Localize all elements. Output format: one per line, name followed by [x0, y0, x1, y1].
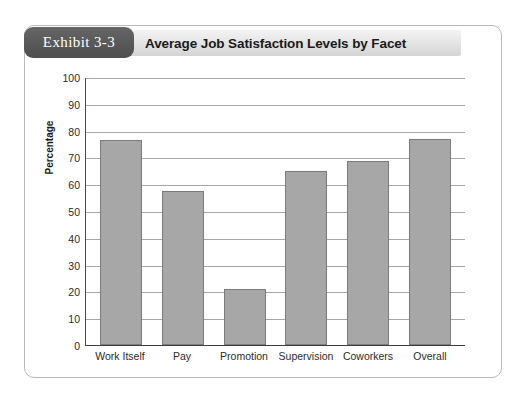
- bar-slot: [275, 78, 337, 345]
- bar-slot: [399, 78, 461, 345]
- bar-slot: [214, 78, 276, 345]
- x-axis-labels: Work ItselfPayPromotionSupervisionCowork…: [85, 350, 465, 362]
- y-axis-ticks: 1009080706050403020100: [48, 78, 80, 346]
- y-tick-label: 90: [50, 99, 80, 111]
- bar-coworkers: [347, 161, 389, 345]
- y-tick-label: 20: [50, 286, 80, 298]
- bar-pay: [162, 191, 204, 345]
- x-tick-label: Supervision: [275, 350, 337, 362]
- x-tick-label: Promotion: [213, 350, 275, 362]
- y-tick-label: 80: [50, 126, 80, 138]
- y-tick-label: 10: [50, 313, 80, 325]
- x-tick-label: Work Itself: [89, 350, 151, 362]
- y-tick-label: 0: [50, 340, 80, 352]
- bar-supervision: [285, 171, 327, 345]
- x-tick-label: Pay: [151, 350, 213, 362]
- bar-slot: [152, 78, 214, 345]
- x-tick-label: Overall: [399, 350, 461, 362]
- chart-canvas: Percentage 1009080706050403020100 Work I…: [0, 0, 527, 402]
- bar-work-itself: [100, 140, 142, 345]
- y-tick-label: 100: [50, 72, 80, 84]
- plot-area: [85, 78, 465, 346]
- bar-slot: [337, 78, 399, 345]
- bar-slot: [90, 78, 152, 345]
- y-tick-label: 50: [50, 206, 80, 218]
- bar-series: [86, 78, 465, 345]
- y-tick-label: 40: [50, 233, 80, 245]
- y-tick-label: 70: [50, 152, 80, 164]
- bar-promotion: [224, 289, 266, 345]
- exhibit-figure: Exhibit 3-3 Average Job Satisfaction Lev…: [0, 0, 527, 402]
- y-tick-label: 30: [50, 260, 80, 272]
- bar-overall: [409, 139, 451, 345]
- x-tick-label: Coworkers: [337, 350, 399, 362]
- y-tick-label: 60: [50, 179, 80, 191]
